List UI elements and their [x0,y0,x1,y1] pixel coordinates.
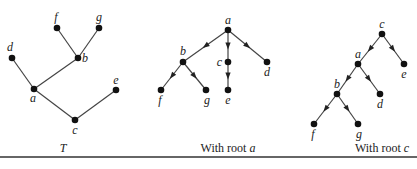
arrowhead-c-e [225,73,230,80]
node-label-a: a [225,13,231,27]
node-label-c: c [217,55,223,69]
node-label-d: d [7,40,14,54]
node-f [54,25,61,32]
caption-root-a: With root a [201,141,256,155]
edge-c-e [75,90,116,120]
node-label-b: b [334,77,340,91]
node-label-f: f [311,127,316,141]
edge-a-d [12,58,34,89]
node-label-c: c [72,123,78,137]
node-label-c: c [379,17,385,31]
node-label-b: b [180,44,186,58]
arrowhead-b-g [343,105,349,112]
arrowhead-a-b [345,75,351,82]
caption-T: T [60,141,68,155]
edge-a-b [34,58,78,89]
node-d [9,55,16,62]
tree-root-a: abcdfge [158,13,271,107]
node-label-e: e [113,73,119,87]
caption-root-c: With root c [355,141,410,155]
node-label-b: b [82,51,88,65]
arrowhead-a-c [225,43,230,50]
edge-a-c [34,89,75,120]
caption-root-c-prefix: With root [355,141,404,155]
node-label-f: f [158,93,163,107]
caption-root-a-prefix: With root [201,141,250,155]
tree-root-c: caebdfg [311,17,408,141]
node-label-a: a [355,47,361,61]
arrowhead-a-d [365,75,371,82]
node-label-e: e [225,93,231,107]
node-label-g: g [96,10,102,24]
node-label-e: e [401,67,407,81]
caption-root-a-var: a [249,141,255,155]
node-c [225,59,232,66]
node-label-g: g [356,127,362,141]
edge-b-f [57,28,78,58]
node-b [334,91,341,98]
node-a [225,27,232,34]
node-a [355,61,362,68]
node-c [379,31,386,38]
node-g [96,25,103,32]
node-b [75,55,82,62]
node-label-a: a [30,91,36,105]
tree-T: fgdbaec [7,10,119,137]
arrowhead-c-e [389,45,395,52]
caption-root-c-var: c [404,141,410,155]
node-b [180,59,187,66]
node-label-f: f [54,10,59,24]
arrowhead-a-b [203,42,210,48]
node-e [113,87,120,94]
node-label-g: g [204,93,210,107]
tree-rooting-diagram: fgdbaec abcdfge caebdfg T With root a Wi… [0,0,417,169]
node-label-d: d [377,97,384,111]
node-label-d: d [264,65,271,79]
